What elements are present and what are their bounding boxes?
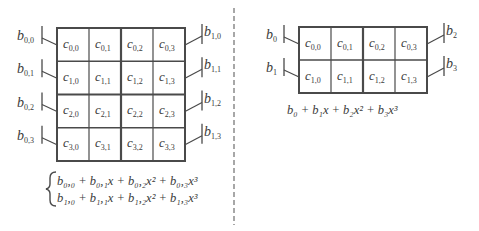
grid-cell-0-0: c0,0 bbox=[305, 35, 321, 52]
left-formula-system: b₀,₀ + b₀,₁x + b₀,₂x² + b₀,₃x³b₁,₀ + b₁,… bbox=[46, 172, 198, 206]
grid-cell-0-1: c0,1 bbox=[95, 36, 111, 53]
grid-cell-0-2: c0,2 bbox=[127, 36, 143, 53]
grid-cell-1-1: c1,1 bbox=[95, 69, 111, 86]
grid-cell-1-1: c1,1 bbox=[337, 68, 353, 85]
grid-cell-1-0: c1,0 bbox=[305, 68, 321, 85]
right-label-b1,2: b1,2 bbox=[204, 91, 221, 108]
grid-cell-0-0: c0,0 bbox=[63, 36, 79, 53]
right-panel-2x4-grid: c0,0c0,1c0,2c0,3c1,0c1,1c1,2c1,3b0b1b2b3 bbox=[266, 23, 457, 93]
grid-cell-0-2: c0,2 bbox=[369, 35, 385, 52]
label-connector bbox=[185, 103, 202, 112]
grid-cell-0-1: c0,1 bbox=[337, 35, 353, 52]
grid-cell-3-0: c3,0 bbox=[63, 135, 79, 152]
curly-brace-icon bbox=[46, 172, 56, 206]
label-connector bbox=[42, 138, 57, 145]
right-label-b3: b3 bbox=[446, 56, 457, 73]
grid-cell-2-0: c2,0 bbox=[63, 102, 79, 119]
grid-cell-1-2: c1,2 bbox=[127, 69, 143, 86]
left-label-b0,0: b0,0 bbox=[17, 28, 34, 45]
grid-cell-1-3: c1,3 bbox=[401, 68, 417, 85]
grid-cell-2-1: c2,1 bbox=[95, 102, 111, 119]
grid-cell-1-0: c1,0 bbox=[63, 69, 79, 86]
label-connector bbox=[427, 68, 444, 77]
diagram-canvas: c0,0c0,1c0,2c0,3c1,0c1,1c1,2c1,3c2,0c2,1… bbox=[0, 0, 479, 231]
formula-line-1: b₁,₀ + b₁,₁x + b₁,₂x² + b₁,₃x³ bbox=[57, 191, 198, 205]
left-label-b1: b1 bbox=[266, 60, 277, 77]
label-connector bbox=[42, 105, 57, 112]
label-connector bbox=[284, 37, 299, 44]
label-connector bbox=[185, 136, 202, 145]
right-label-b1,0: b1,0 bbox=[204, 24, 221, 41]
polynomial-formula: b₀ + b₁x + b₂x² + b₃x³ bbox=[287, 103, 398, 117]
grid-cell-0-3: c0,3 bbox=[401, 35, 417, 52]
left-label-b0: b0 bbox=[266, 27, 277, 44]
left-label-b0,2: b0,2 bbox=[17, 95, 34, 112]
right-label-b1,3: b1,3 bbox=[204, 124, 221, 141]
grid-cell-3-3: c3,3 bbox=[159, 135, 175, 152]
left-label-b0,3: b0,3 bbox=[17, 128, 34, 145]
right-label-b2: b2 bbox=[446, 23, 457, 40]
grid-cell-3-2: c3,2 bbox=[127, 135, 143, 152]
grid-cell-2-2: c2,2 bbox=[127, 102, 143, 119]
grid-cell-1-3: c1,3 bbox=[159, 69, 175, 86]
label-connector bbox=[42, 38, 57, 45]
label-connector bbox=[284, 70, 299, 77]
label-connector bbox=[42, 71, 57, 78]
label-connector bbox=[427, 35, 444, 44]
grid-cell-1-2: c1,2 bbox=[369, 68, 385, 85]
left-panel-4x4-grid: c0,0c0,1c0,2c0,3c1,0c1,1c1,2c1,3c2,0c2,1… bbox=[17, 24, 221, 161]
grid-cell-2-3: c2,3 bbox=[159, 102, 175, 119]
label-connector bbox=[185, 69, 202, 78]
grid-cell-3-1: c3,1 bbox=[95, 135, 111, 152]
left-label-b0,1: b0,1 bbox=[17, 61, 34, 78]
grid-cell-0-3: c0,3 bbox=[159, 36, 175, 53]
right-formula: b₀ + b₁x + b₂x² + b₃x³ bbox=[287, 103, 398, 117]
formula-line-0: b₀,₀ + b₀,₁x + b₀,₂x² + b₀,₃x³ bbox=[57, 174, 198, 188]
label-connector bbox=[185, 36, 202, 45]
right-label-b1,1: b1,1 bbox=[204, 57, 221, 74]
